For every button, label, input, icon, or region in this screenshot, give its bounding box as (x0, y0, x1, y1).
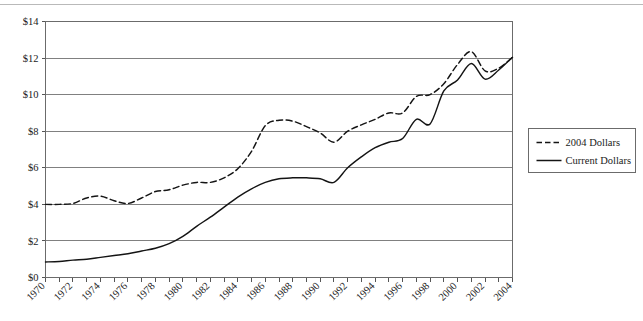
legend-label-2: Current Dollars (566, 155, 632, 166)
x-axis-tick-label: 1994 (354, 280, 377, 303)
plot-area-border (46, 22, 513, 278)
x-axis-tick-label: 1974 (79, 280, 102, 303)
y-axis-tick-label: $8 (28, 126, 39, 137)
x-axis-tick-label: 1970 (24, 280, 47, 303)
x-axis-tick-label: 1984 (217, 280, 240, 303)
series-group (46, 52, 513, 262)
series-line-1 (46, 52, 513, 205)
x-axis-tick-label: 2004 (491, 280, 514, 303)
y-axis-labels-group: $0$2$4$6$8$10$12$14 (23, 16, 40, 283)
line-chart: $0$2$4$6$8$10$12$14 19701972197419761978… (0, 0, 643, 321)
y-axis-tick-label: $12 (23, 53, 39, 64)
y-axis-tick-label: $10 (23, 89, 39, 100)
y-axis-tick-label: $2 (28, 236, 39, 247)
legend-label-1: 2004 Dollars (566, 137, 621, 148)
x-axis-tick-label: 1998 (409, 280, 432, 303)
series-line-2 (46, 57, 513, 262)
x-axis-tick-label: 1990 (299, 280, 322, 303)
y-axis-tick-label: $6 (28, 162, 39, 173)
x-tick-marks-group (46, 278, 513, 282)
x-axis-tick-label: 2002 (464, 280, 487, 303)
x-axis-tick-label: 1978 (134, 280, 157, 303)
y-tick-marks-group (42, 22, 46, 278)
x-axis-tick-label: 1986 (244, 280, 267, 303)
x-axis-labels-group: 1970197219741976197819801982198419861988… (24, 280, 514, 303)
x-axis-tick-label: 1980 (162, 280, 185, 303)
x-axis-tick-label: 1982 (189, 280, 212, 303)
chart-container: $0$2$4$6$8$10$12$14 19701972197419761978… (0, 0, 643, 321)
x-axis-tick-label: 1972 (52, 280, 75, 303)
x-axis-tick-label: 1988 (272, 280, 295, 303)
gridlines-group (46, 22, 513, 278)
y-axis-tick-label: $14 (23, 16, 40, 27)
y-axis-tick-label: $4 (28, 199, 39, 210)
x-axis-tick-label: 1976 (107, 280, 130, 303)
x-axis-tick-label: 1992 (326, 280, 349, 303)
chart-legend: 2004 DollarsCurrent Dollars (529, 129, 636, 173)
x-axis-tick-label: 1996 (381, 280, 404, 303)
x-axis-tick-label: 2000 (436, 280, 459, 303)
